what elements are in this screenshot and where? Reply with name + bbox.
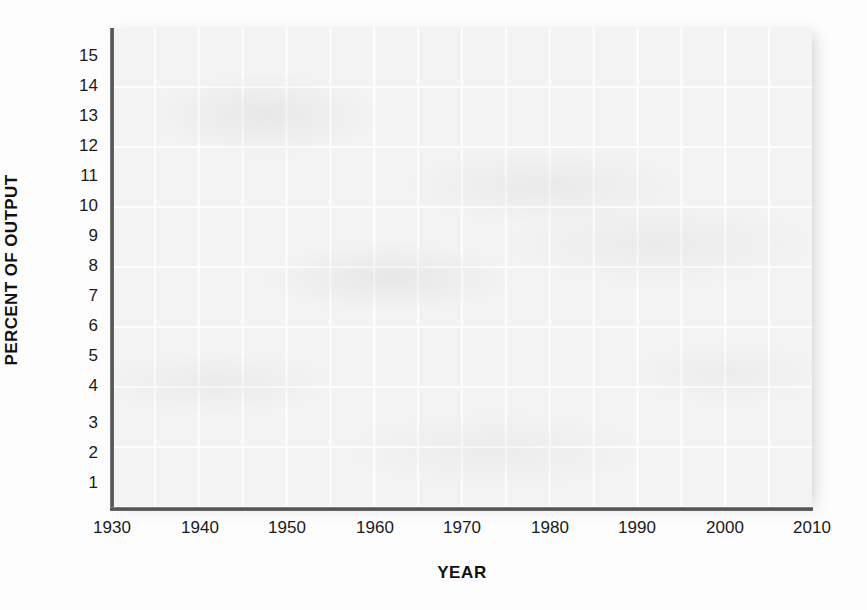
y-axis-line [110, 28, 114, 511]
chart-figure: 15 14 13 12 11 10 9 8 7 6 5 4 3 2 1 1930… [0, 0, 867, 610]
y-axis-title: PERCENT OF OUTPUT [2, 175, 22, 366]
y-tick-label: 4 [0, 377, 98, 394]
x-tick-label: 1970 [443, 519, 481, 536]
y-tick-label: 1 [0, 474, 98, 491]
x-tick-label: 1960 [356, 519, 394, 536]
y-tick-label: 14 [0, 77, 98, 94]
y-tick-label: 15 [0, 47, 98, 64]
x-tick-label: 1930 [93, 519, 131, 536]
y-tick-label: 3 [0, 414, 98, 431]
plot-gridlines [110, 28, 812, 508]
y-tick-label: 13 [0, 107, 98, 124]
x-axis-line [110, 507, 813, 511]
x-tick-label: 1940 [181, 519, 219, 536]
y-tick-label: 12 [0, 137, 98, 154]
x-axis-title: YEAR [437, 563, 487, 583]
x-tick-label: 2000 [706, 519, 744, 536]
plot-area [110, 28, 812, 508]
x-tick-label: 2010 [793, 519, 831, 536]
x-tick-label: 1980 [531, 519, 569, 536]
x-tick-label: 1950 [268, 519, 306, 536]
y-tick-label: 2 [0, 444, 98, 461]
x-tick-label: 1990 [618, 519, 656, 536]
